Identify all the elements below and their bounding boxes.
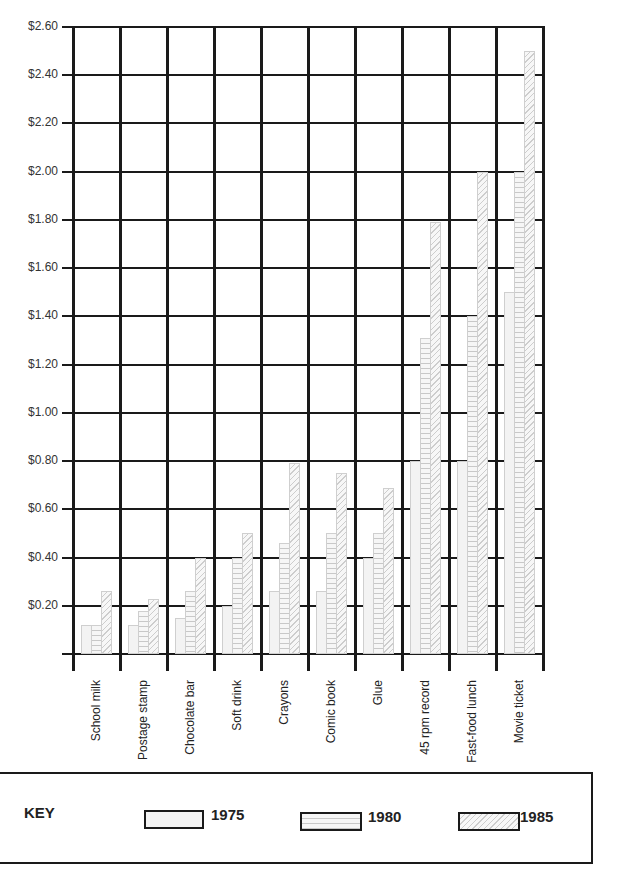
column-divider xyxy=(401,26,404,671)
column-divider xyxy=(542,26,545,671)
y-tick-label: $1.40 xyxy=(2,308,58,322)
x-tick-label: Movie ticket xyxy=(512,680,526,743)
gridline xyxy=(62,267,545,269)
bar-1985 xyxy=(477,172,488,654)
x-tick-label: Chocolate bar xyxy=(183,680,197,755)
gridline xyxy=(62,26,545,28)
x-tick-label: 45 rpm record xyxy=(418,680,432,755)
legend-swatch-1985 xyxy=(458,812,520,831)
y-tick-label: $1.20 xyxy=(2,357,58,371)
gridline xyxy=(62,122,545,124)
legend-label-1985: 1985 xyxy=(520,808,553,825)
bar-1985 xyxy=(524,51,535,654)
x-tick-label: Postage stamp xyxy=(136,680,150,760)
y-tick-label: $0.40 xyxy=(2,550,58,564)
x-tick-label: School milk xyxy=(89,680,103,741)
column-divider xyxy=(495,26,498,671)
y-tick-label: $0.80 xyxy=(2,453,58,467)
y-tick-label: $1.00 xyxy=(2,405,58,419)
column-divider xyxy=(260,26,263,671)
y-tick-label: $0.60 xyxy=(2,501,58,515)
bar-1985 xyxy=(289,463,300,654)
x-tick-label: Crayons xyxy=(277,680,291,725)
legend-label-1980: 1980 xyxy=(368,808,401,825)
gridline xyxy=(62,171,545,173)
bar-1985 xyxy=(242,533,253,654)
y-tick-label: $1.80 xyxy=(2,212,58,226)
column-divider xyxy=(448,26,451,671)
bar-1985 xyxy=(430,222,441,654)
column-divider xyxy=(213,26,216,671)
y-tick-label: $2.40 xyxy=(2,67,58,81)
bar-1985 xyxy=(195,558,206,654)
legend-label-1975: 1975 xyxy=(211,806,244,823)
column-divider xyxy=(307,26,310,671)
x-tick-label: Comic book xyxy=(324,680,338,743)
x-tick-label: Soft drink xyxy=(230,680,244,731)
x-tick-label: Glue xyxy=(371,680,385,705)
bar-1985 xyxy=(148,599,159,654)
column-divider xyxy=(72,26,75,671)
column-divider xyxy=(119,26,122,671)
y-tick-label: $2.20 xyxy=(2,115,58,129)
legend-swatch-1975 xyxy=(144,810,204,829)
gridline xyxy=(62,219,545,221)
bar-chart: $0.20$0.40$0.60$0.80$1.00$1.20$1.40$1.60… xyxy=(0,0,618,760)
y-tick-label: $0.20 xyxy=(2,598,58,612)
key-title: KEY xyxy=(24,804,55,821)
bar-1985 xyxy=(336,473,347,654)
y-tick-label: $1.60 xyxy=(2,260,58,274)
bar-1985 xyxy=(383,488,394,654)
bar-1985 xyxy=(101,591,112,654)
legend-key: KEY 1975 1980 1985 xyxy=(0,772,593,864)
column-divider xyxy=(166,26,169,671)
legend-swatch-1980 xyxy=(300,812,362,831)
y-tick-label: $2.00 xyxy=(2,164,58,178)
column-divider xyxy=(354,26,357,671)
x-tick-label: Fast-food lunch xyxy=(465,680,479,763)
gridline xyxy=(62,74,545,76)
y-tick-label: $2.60 xyxy=(2,19,58,33)
